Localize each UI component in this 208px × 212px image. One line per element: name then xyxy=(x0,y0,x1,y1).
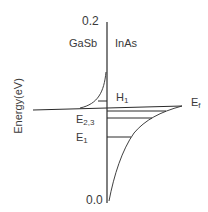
band-edge-line xyxy=(33,108,107,110)
y-tick-bottom: 0.0 xyxy=(86,194,103,206)
gasb-band-curve xyxy=(80,72,106,108)
h1-main: H xyxy=(116,91,124,103)
region-label-gasb: GaSb xyxy=(69,37,97,49)
inas-band-curve xyxy=(109,106,182,201)
level-label-e1: E1 xyxy=(76,131,88,143)
e23-sub: 2,3 xyxy=(83,118,94,127)
fermi-level-line xyxy=(107,106,182,108)
level-label-e23: E2,3 xyxy=(76,113,94,125)
y-axis-label: Energy(eV) xyxy=(12,78,24,134)
y-tick-top: 0.2 xyxy=(82,15,99,27)
region-label-inas: InAs xyxy=(115,37,137,49)
e1-sub: 1 xyxy=(83,136,87,145)
level-label-h1: H1 xyxy=(116,91,128,103)
h1-sub: 1 xyxy=(124,96,128,105)
ef-sub: f xyxy=(198,101,200,110)
band-diagram xyxy=(0,0,208,212)
level-label-ef: Ef xyxy=(191,96,201,108)
